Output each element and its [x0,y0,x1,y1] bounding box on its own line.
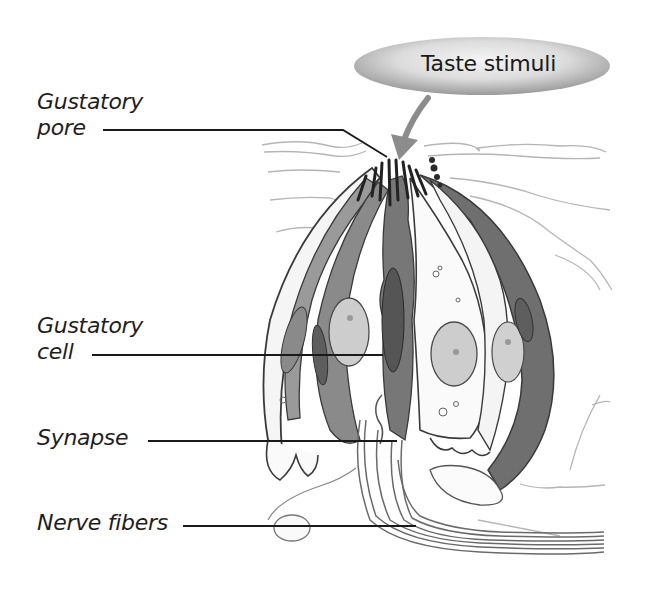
label-line: Gustatory [37,313,143,339]
label-gustatory-pore: Gustatory pore [37,89,143,141]
leader-line-gustatory-pore [103,130,387,157]
taste-stimuli-label: Taste stimuli [421,51,556,76]
taste-bud [263,157,553,490]
label-gustatory-cell: Gustatory cell [37,313,143,365]
label-line: pore [37,115,143,141]
label-line: cell [37,339,143,365]
label-line: Gustatory [37,89,143,115]
label-synapse: Synapse [37,425,128,451]
label-line: Nerve fibers [37,510,168,536]
label-nerve-fibers: Nerve fibers [37,510,168,536]
curved-down-arrow-icon [391,98,428,160]
label-line: Synapse [37,425,128,451]
